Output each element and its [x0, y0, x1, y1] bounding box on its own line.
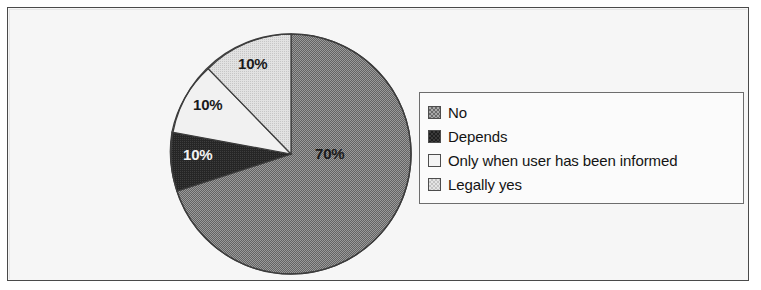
legend-swatch-depends [428, 130, 441, 143]
legend-item-no[interactable]: No [428, 100, 743, 124]
legend-item-depends[interactable]: Depends [428, 124, 743, 148]
legend-swatch-only-when-informed [428, 154, 441, 167]
slice-label-no: 70% [315, 145, 344, 162]
legend-label-depends: Depends [448, 128, 507, 145]
slice-label-only-when-informed: 10% [193, 96, 222, 113]
legend-item-only-when-informed[interactable]: Only when user has been informed [428, 148, 743, 172]
slice-label-legally-yes: 10% [238, 55, 267, 72]
legend-label-no: No [448, 104, 467, 121]
legend-swatch-legally-yes [428, 178, 441, 191]
legend-swatch-no [428, 106, 441, 119]
legend-label-legally-yes: Legally yes [448, 176, 522, 193]
chart-legend: No Depends Only when user has been infor… [419, 92, 744, 204]
legend-item-legally-yes[interactable]: Legally yes [428, 172, 743, 196]
slice-label-depends: 10% [183, 146, 212, 163]
legend-label-only-when-informed: Only when user has been informed [448, 152, 677, 169]
plot-frame: 10% 10% 10% 70% No Depends Only when use… [7, 7, 749, 281]
pie-chart: 10% 10% 10% 70% [164, 27, 418, 281]
pie-chart-figure: 10% 10% 10% 70% No Depends Only when use… [0, 0, 761, 290]
